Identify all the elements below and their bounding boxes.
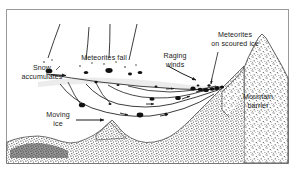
meteorite-diagram-figure: Snow accumulates Meteorites fall Raging …	[0, 0, 295, 173]
snow-leader-tick	[56, 66, 60, 70]
fall-trajectory-3	[109, 24, 110, 58]
label-meteorites-scoured-line1: Meteorites	[218, 31, 252, 39]
scoured-ice-leader-arrow	[211, 78, 212, 84]
label-mountain-barrier-line2: barrier	[247, 102, 269, 110]
label-raging-winds-line1: Raging	[163, 52, 186, 60]
label-meteorites-scoured-line2: on scoured ice	[211, 40, 259, 48]
scoured-ice-leader	[212, 52, 218, 78]
label-snow-accumulates-line2: accumulates	[22, 73, 63, 81]
label-mountain-barrier-line1: Mountain	[243, 93, 273, 101]
fall-trajectory-4	[129, 24, 137, 60]
diagram-canvas: Snow accumulates Meteorites fall Raging …	[0, 0, 295, 173]
label-moving-ice-line2: ice	[53, 120, 62, 128]
label-meteorites-fall: Meteorites fall	[81, 54, 127, 62]
fall-trajectory-1	[48, 24, 60, 58]
label-snow-accumulates-line1: Snow	[33, 64, 52, 72]
flow-arrow-6	[166, 89, 174, 90]
label-moving-ice-line1: Moving	[46, 111, 69, 119]
label-raging-winds-line2: winds	[165, 61, 185, 69]
flow-arrow-4	[182, 96, 190, 99]
